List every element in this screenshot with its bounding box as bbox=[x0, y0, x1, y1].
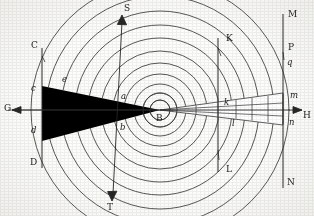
point-label-n: n bbox=[289, 118, 294, 127]
point-label-K: K bbox=[226, 34, 233, 43]
point-label-a: a bbox=[121, 92, 126, 101]
point-label-B: B bbox=[156, 114, 163, 123]
point-label-M: M bbox=[288, 10, 297, 19]
point-label-L: L bbox=[226, 165, 232, 174]
point-label-m: m bbox=[290, 91, 298, 100]
point-label-e: e bbox=[62, 75, 67, 84]
point-label-l: l bbox=[232, 119, 235, 128]
point-label-q: q bbox=[287, 58, 292, 67]
point-label-c: c bbox=[31, 84, 36, 93]
wavefront-diagram: CcdDeabBKklLMPqmnNSTGH bbox=[0, 0, 314, 216]
black-shadow-wedge bbox=[42, 86, 160, 141]
point-label-S: S bbox=[124, 4, 130, 13]
point-label-b: b bbox=[120, 123, 125, 132]
point-label-P: P bbox=[288, 43, 294, 52]
point-label-N: N bbox=[287, 178, 295, 187]
point-label-T: T bbox=[107, 203, 113, 212]
point-label-d: d bbox=[31, 126, 36, 135]
point-label-k: k bbox=[224, 98, 229, 107]
diagram-canvas bbox=[0, 0, 314, 216]
point-label-G: G bbox=[4, 104, 11, 113]
point-label-D: D bbox=[30, 158, 37, 167]
point-label-H: H bbox=[303, 111, 311, 120]
point-label-C: C bbox=[31, 41, 38, 50]
